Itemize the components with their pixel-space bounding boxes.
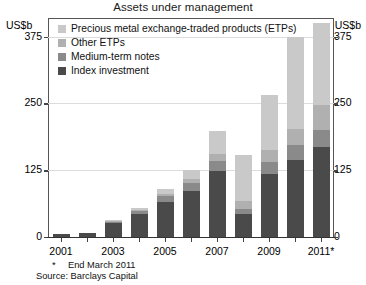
x-tick-label-2003: 2003 <box>83 245 143 257</box>
bar-segment <box>105 223 122 237</box>
footnote-star-marker: * <box>52 260 56 270</box>
y-tick-label-right-250: 250 <box>334 96 364 108</box>
bar-segment <box>313 23 330 104</box>
bars-layer <box>48 18 334 237</box>
bar-segment <box>261 95 278 151</box>
bar-2011star[interactable] <box>313 18 330 237</box>
x-tick-label-2009: 2009 <box>239 245 299 257</box>
bar-segment <box>131 211 148 214</box>
page-title: Assets under management <box>0 1 366 13</box>
bar-segment <box>157 196 174 201</box>
x-tick-mark <box>113 238 114 242</box>
x-tick-label-2001: 2001 <box>31 245 91 257</box>
chart-container: Assets under management US$b US$b 012525… <box>0 0 366 285</box>
x-tick-mark <box>217 238 218 242</box>
bar-segment <box>183 170 200 179</box>
bar-segment <box>235 214 252 238</box>
bar-segment <box>105 222 122 224</box>
x-tick-mark <box>165 238 166 242</box>
x-tick-label-2005: 2005 <box>135 245 195 257</box>
y-tick-mark-right-250 <box>334 103 338 104</box>
bar-segment <box>105 220 122 221</box>
bar-segment <box>287 145 304 160</box>
x-tick-mark <box>269 238 270 242</box>
bar-2009[interactable] <box>261 18 278 237</box>
bar-segment <box>183 191 200 237</box>
bar-2002[interactable] <box>79 18 96 237</box>
bar-2001[interactable] <box>53 18 70 237</box>
y-tick-label-left-375: 375 <box>4 30 42 42</box>
footnote-star-text: End March 2011 <box>68 260 136 270</box>
bar-segment <box>131 208 148 210</box>
y-tick-label-left-250: 250 <box>4 96 42 108</box>
bar-segment <box>183 183 200 190</box>
x-tick-label-2007: 2007 <box>187 245 247 257</box>
bar-segment <box>157 202 174 237</box>
bar-2003[interactable] <box>105 18 122 237</box>
bar-segment <box>209 131 226 153</box>
bar-2004[interactable] <box>131 18 148 237</box>
bar-2006[interactable] <box>183 18 200 237</box>
bar-2007[interactable] <box>209 18 226 237</box>
bar-segment <box>313 130 330 147</box>
bar-segment <box>235 155 252 201</box>
bar-segment <box>261 162 278 174</box>
bar-segment <box>209 154 226 161</box>
bar-2005[interactable] <box>157 18 174 237</box>
bar-2008[interactable] <box>235 18 252 237</box>
bar-segment <box>209 171 226 237</box>
footnote-source: Source: Barclays Capital <box>36 271 138 281</box>
x-tick-mark <box>243 238 244 242</box>
y-tick-label-right-375: 375 <box>334 30 364 42</box>
y-tick-label-right-0: 0 <box>334 230 364 242</box>
x-tick-mark <box>139 238 140 242</box>
bar-segment <box>287 37 304 129</box>
bar-segment <box>261 174 278 237</box>
x-tick-mark <box>191 238 192 242</box>
bar-segment <box>131 210 148 211</box>
bar-segment <box>313 147 330 237</box>
bar-segment <box>235 201 252 208</box>
y-tick-label-left-125: 125 <box>4 163 42 175</box>
y-tick-mark-right-375 <box>334 37 338 38</box>
x-tick-mark <box>61 238 62 242</box>
x-tick-mark <box>295 238 296 242</box>
bar-segment <box>287 129 304 145</box>
bar-segment <box>235 209 252 214</box>
bar-segment <box>209 161 226 171</box>
y-tick-label-right-125: 125 <box>334 163 364 175</box>
bar-segment <box>157 194 174 197</box>
bar-2010[interactable] <box>287 18 304 237</box>
bar-segment <box>131 214 148 237</box>
y-tick-mark-right-125 <box>334 170 338 171</box>
bar-segment <box>261 150 278 162</box>
bar-segment <box>157 189 174 194</box>
y-tick-label-left-0: 0 <box>4 230 42 242</box>
bar-segment <box>313 105 330 131</box>
x-tick-mark <box>87 238 88 242</box>
bar-segment <box>183 179 200 183</box>
bar-segment <box>287 160 304 237</box>
x-tick-mark <box>321 238 322 242</box>
bar-segment <box>105 221 122 222</box>
x-tick-label-2011star: 2011* <box>291 245 351 257</box>
